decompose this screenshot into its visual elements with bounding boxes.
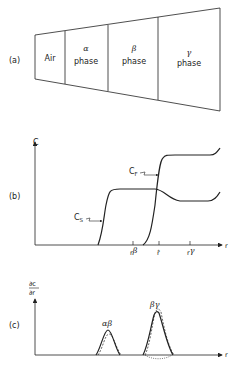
panel-c: (c) ∂c ∂r r αβ βγ (9, 280, 228, 359)
figure: (a) Air α phase β phase γ phase (b) C r … (0, 0, 235, 370)
cf-pointer-arrow (140, 172, 158, 175)
cs-curve (98, 189, 220, 245)
dr-label: ∂r (29, 289, 35, 297)
r-axis-c-label: r (225, 351, 228, 359)
panel-a: (a) Air α phase β phase γ phase (9, 8, 220, 111)
panel-b: (b) C r rβ r̂ rγ CS CF (9, 138, 228, 257)
panel-a-label: (a) (9, 56, 20, 65)
cs-pointer-arrow (86, 218, 102, 221)
peak-beta-gamma-label: βγ (149, 300, 160, 309)
peak-alpha-beta-solid (96, 330, 120, 355)
peak-alpha-beta-label: αβ (102, 319, 112, 328)
tick-label-r-hat: r̂ (157, 249, 160, 257)
tick-label-r-beta: rβ (130, 246, 138, 257)
region-beta-label: phase (122, 57, 146, 66)
dc-label: ∂c (29, 280, 36, 288)
region-beta-symbol: β (131, 44, 137, 53)
peak-alpha-beta-dashed (98, 334, 121, 355)
tick-label-r-gamma: rγ (187, 246, 195, 257)
peak-beta-gamma-dip (145, 355, 172, 359)
region-air-label: Air (45, 54, 57, 63)
r-axis-label: r (225, 242, 228, 250)
panel-b-label: (b) (9, 192, 20, 201)
c-axis-label: C (33, 138, 39, 147)
region-gamma-label: phase (177, 59, 201, 68)
cf-curve (143, 148, 220, 245)
panel-c-label: (c) (9, 321, 20, 330)
region-gamma-symbol: γ (187, 48, 192, 57)
cf-label: CF (129, 167, 138, 177)
region-alpha-label: phase (74, 57, 98, 66)
region-alpha-symbol: α (83, 44, 89, 53)
cs-label: CS (74, 213, 84, 223)
